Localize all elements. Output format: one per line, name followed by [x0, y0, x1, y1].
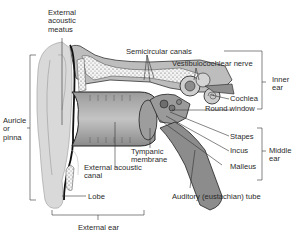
label-round-window: Round window [205, 105, 255, 113]
bone-below-canal [66, 165, 74, 190]
label-malleus: Malleus [230, 163, 256, 171]
label-external-acoustic-meatus: External acoustic meatus [48, 9, 76, 34]
label-external-ear: External ear [78, 224, 119, 232]
label-lobe: Lobe [88, 193, 105, 201]
label-cochlea: Cochlea [230, 95, 258, 103]
label-auditory-tube: Auditory (eustachian) tube [172, 193, 261, 201]
label-incus: Incus [230, 147, 248, 155]
label-auricle-or-pinna: Auricle or pinna [3, 117, 26, 142]
label-semicircular-canals: Semicircular canals [126, 48, 192, 56]
label-inner-ear: Inner ear [272, 76, 289, 93]
label-vestibulocochlear-nerve: Vestibulocochlear nerve [172, 60, 253, 68]
label-external-acoustic-canal: External acoustic canal [84, 164, 142, 181]
ear-anatomy-diagram: External acoustic meatus Semicircular ca… [0, 0, 300, 247]
ear-illustration [0, 0, 300, 247]
label-stapes: Stapes [230, 133, 254, 141]
label-middle-ear: Middle ear [269, 147, 291, 164]
